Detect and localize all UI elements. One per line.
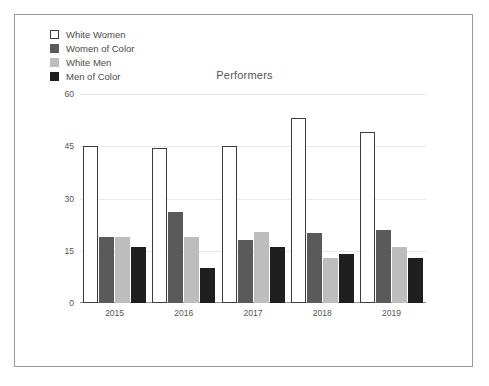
plot-area <box>80 94 426 303</box>
legend-item[interactable]: Women of Color <box>50 42 210 55</box>
legend-swatch-icon <box>50 44 59 53</box>
bar[interactable] <box>184 237 199 303</box>
bar[interactable] <box>339 254 354 303</box>
y-axis-tick-label: 30 <box>65 194 74 204</box>
bar[interactable] <box>408 258 423 303</box>
y-axis-tick-label: 45 <box>65 141 74 151</box>
bar-group <box>218 94 287 303</box>
legend-swatch-icon <box>50 58 59 67</box>
x-axis-tick-label: 2015 <box>80 304 149 322</box>
bar-group <box>80 94 149 303</box>
legend-item-label: White Women <box>66 29 125 40</box>
x-axis: 20152016201720182019 <box>80 304 426 322</box>
y-axis-tick-label: 0 <box>69 298 74 308</box>
bar[interactable] <box>83 146 98 303</box>
bar[interactable] <box>323 258 338 303</box>
x-axis-tick-label: 2016 <box>149 304 218 322</box>
bar[interactable] <box>168 212 183 303</box>
bar-group-bars <box>360 94 423 303</box>
bar-group <box>357 94 426 303</box>
bar[interactable] <box>152 148 167 303</box>
bar-group-bars <box>83 94 146 303</box>
y-axis-tick-label: 60 <box>65 89 74 99</box>
x-axis-tick-label: 2019 <box>357 304 426 322</box>
bar[interactable] <box>131 247 146 303</box>
legend-item[interactable]: White Men <box>50 56 210 69</box>
chart-page: White WomenWomen of ColorWhite MenMen of… <box>0 0 489 386</box>
legend-item-label: White Men <box>66 57 111 68</box>
bar[interactable] <box>222 146 237 303</box>
bar[interactable] <box>99 237 114 303</box>
bar[interactable] <box>392 247 407 303</box>
bar-group-bars <box>152 94 215 303</box>
bar[interactable] <box>270 247 285 303</box>
bar[interactable] <box>360 132 375 303</box>
chart-title: Performers <box>0 69 489 81</box>
bar-group-bars <box>291 94 354 303</box>
x-axis-tick-label: 2017 <box>218 304 287 322</box>
legend-swatch-icon <box>50 30 59 39</box>
y-axis-tick-label: 15 <box>65 246 74 256</box>
bar-group-bars <box>222 94 285 303</box>
bar[interactable] <box>238 240 253 303</box>
plot-wrapper: 604530150 20152016201720182019 <box>50 94 430 310</box>
bar[interactable] <box>254 232 269 303</box>
bar-group <box>288 94 357 303</box>
bar[interactable] <box>200 268 215 303</box>
bar[interactable] <box>307 233 322 303</box>
bar[interactable] <box>291 118 306 303</box>
legend-item-label: Women of Color <box>66 43 134 54</box>
x-axis-tick-label: 2018 <box>288 304 357 322</box>
bar-group <box>149 94 218 303</box>
bar-groups <box>80 94 426 303</box>
legend-item[interactable]: White Women <box>50 28 210 41</box>
bar[interactable] <box>115 237 130 303</box>
y-axis: 604530150 <box>50 94 78 310</box>
bar[interactable] <box>376 230 391 303</box>
